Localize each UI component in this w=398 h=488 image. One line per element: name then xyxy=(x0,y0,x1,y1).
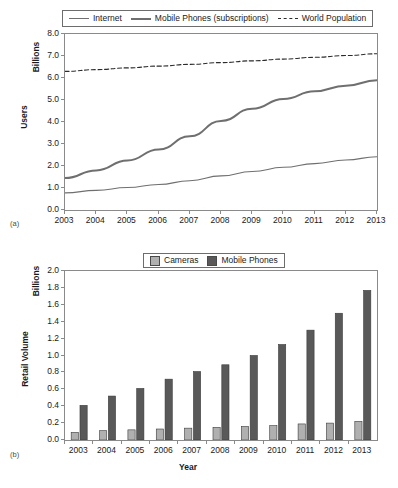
y-tick-label: 0.6 xyxy=(33,383,59,393)
x-tick-mark xyxy=(220,211,221,214)
plot-area-figure-b xyxy=(64,270,378,441)
bar-mobile-phones-2007 xyxy=(193,372,200,440)
y-axis-title-users: Users xyxy=(19,87,29,147)
y-tick-label: 6.0 xyxy=(33,72,59,82)
x-tick-mark xyxy=(126,211,127,214)
x-tick-label: 2012 xyxy=(328,215,362,225)
x-tick-mark xyxy=(95,211,96,214)
bar-cameras-2004 xyxy=(100,431,107,440)
y-tick-label: 8.0 xyxy=(33,28,59,38)
y-tick-label: 1.2 xyxy=(33,333,59,343)
x-tick-label: 2010 xyxy=(265,215,299,225)
x-tick-label: 2005 xyxy=(109,215,143,225)
legend-label: World Population xyxy=(302,14,367,23)
legend-color-swatch-icon xyxy=(207,256,217,266)
x-tick-mark xyxy=(314,211,315,214)
x-tick-label: 2013 xyxy=(345,445,379,455)
x-tick-mark xyxy=(177,441,178,444)
bar-mobile-phones-2004 xyxy=(108,396,115,440)
bar-mobile-phones-2006 xyxy=(165,379,172,440)
x-tick-mark xyxy=(291,441,292,444)
legend-item-1[interactable]: Internet xyxy=(69,14,122,23)
x-tick-mark xyxy=(189,211,190,214)
legend-color-swatch-icon xyxy=(150,256,160,266)
y-tick-label: 0.4 xyxy=(33,400,59,410)
bar-cameras-2005 xyxy=(128,430,135,440)
x-tick-mark xyxy=(251,211,252,214)
x-tick-mark xyxy=(149,441,150,444)
legend-item-3[interactable]: World Population xyxy=(278,14,367,23)
y-tick-label: 4.0 xyxy=(33,116,59,126)
line-series-3 xyxy=(65,54,377,72)
bar-cameras-2010 xyxy=(270,426,277,440)
y-tick-label: 2.0 xyxy=(33,160,59,170)
x-tick-mark xyxy=(348,441,349,444)
line-series-group xyxy=(65,34,377,210)
legend-line-swatch-icon xyxy=(278,18,298,19)
x-tick-mark xyxy=(263,441,264,444)
bar-cameras-2012 xyxy=(326,423,333,440)
x-tick-mark xyxy=(376,211,377,214)
bar-mobile-phones-2013 xyxy=(364,290,371,440)
bar-mobile-phones-2008 xyxy=(222,365,229,440)
y-tick-label: 0.2 xyxy=(33,417,59,427)
figure-a-line-chart: InternetMobile Phones (subscriptions)Wor… xyxy=(0,0,398,244)
legend-line-swatch-icon xyxy=(131,18,151,20)
legend-line-swatch-icon xyxy=(69,18,89,19)
x-tick-mark xyxy=(345,211,346,214)
legend-figure-a: InternetMobile Phones (subscriptions)Wor… xyxy=(62,10,373,27)
y-tick-label: 0.0 xyxy=(33,204,59,214)
bar-mobile-phones-2011 xyxy=(307,330,314,440)
bar-cameras-2006 xyxy=(156,429,163,440)
x-tick-label: 2004 xyxy=(78,215,112,225)
x-tick-mark xyxy=(64,211,65,214)
legend-label: Internet xyxy=(93,14,122,23)
y-tick-label: 7.0 xyxy=(33,50,59,60)
bar-mobile-phones-2005 xyxy=(137,388,144,440)
x-tick-mark xyxy=(234,441,235,444)
x-tick-mark xyxy=(92,441,93,444)
x-tick-label: 2003 xyxy=(47,215,81,225)
y-tick-label: 1.8 xyxy=(33,282,59,292)
y-tick-label: 1.0 xyxy=(33,182,59,192)
y-tick-label: 1.4 xyxy=(33,316,59,326)
y-tick-label: 3.0 xyxy=(33,138,59,148)
y-tick-label: 1.6 xyxy=(33,299,59,309)
bar-cameras-2009 xyxy=(241,426,248,440)
legend-item-2[interactable]: Mobile Phones xyxy=(207,256,277,266)
bar-mobile-phones-2009 xyxy=(250,356,257,441)
line-series-1 xyxy=(65,157,377,193)
legend-item-2[interactable]: Mobile Phones (subscriptions) xyxy=(131,14,269,23)
bar-mobile-phones-2010 xyxy=(279,345,286,440)
legend-label: Cameras xyxy=(164,256,198,265)
x-tick-mark xyxy=(206,441,207,444)
plot-area-figure-a xyxy=(64,33,378,211)
x-tick-label: 2011 xyxy=(297,215,331,225)
bar-cameras-2013 xyxy=(355,421,362,440)
y-tick-label: 2.0 xyxy=(33,265,59,275)
x-tick-mark xyxy=(158,211,159,214)
x-tick-label: 2007 xyxy=(172,215,206,225)
bar-cameras-2007 xyxy=(185,428,192,440)
y-axis-title-retail-volume: Retail Volume xyxy=(20,320,30,398)
bar-series-group xyxy=(65,271,377,440)
legend-item-1[interactable]: Cameras xyxy=(150,256,198,266)
y-tick-label: 0.0 xyxy=(33,434,59,444)
bar-cameras-2008 xyxy=(213,427,220,440)
x-tick-label: 2006 xyxy=(141,215,175,225)
y-tick-label: 1.0 xyxy=(33,350,59,360)
bar-cameras-2011 xyxy=(298,424,305,440)
figure-b-bar-chart: CamerasMobile Phones Retail Volume Billi… xyxy=(0,244,398,488)
bar-mobile-phones-2012 xyxy=(335,313,342,440)
x-axis-title-year: Year xyxy=(179,462,197,472)
legend-figure-b: CamerasMobile Phones xyxy=(143,253,285,268)
bar-mobile-phones-2003 xyxy=(80,405,87,440)
x-tick-mark xyxy=(319,441,320,444)
figure-caption-b: (b) xyxy=(10,450,19,459)
legend-label: Mobile Phones xyxy=(221,256,277,265)
x-tick-label: 2013 xyxy=(359,215,393,225)
x-tick-label: 2008 xyxy=(203,215,237,225)
y-tick-label: 0.8 xyxy=(33,366,59,376)
y-tick-label: 5.0 xyxy=(33,94,59,104)
x-tick-label: 2009 xyxy=(234,215,268,225)
